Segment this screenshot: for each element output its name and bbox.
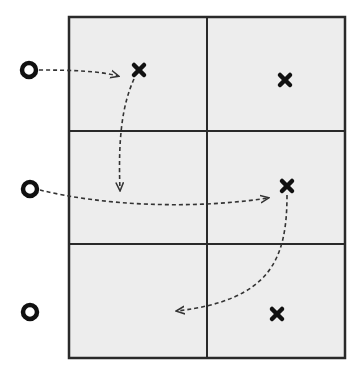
- grid-cell-r2-c1: [69, 131, 207, 244]
- grid-cell-r1-c2: [207, 17, 345, 131]
- circle-marker-icon: [22, 63, 36, 77]
- grid-diagram: [0, 0, 362, 379]
- circle-marker-icon: [23, 182, 37, 196]
- circle-marker-icon: [23, 305, 37, 319]
- circle-markers: [22, 63, 37, 319]
- grid-cell-r3-c1: [69, 244, 207, 358]
- grid-cell-r2-c2: [207, 131, 345, 244]
- grid: [69, 17, 345, 358]
- grid-cell-r3-c2: [207, 244, 345, 358]
